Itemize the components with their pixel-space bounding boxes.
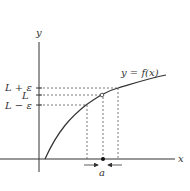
point-a <box>101 157 105 161</box>
open-point-a-L <box>100 93 104 97</box>
curve-label: y = f(x) <box>120 67 159 78</box>
x-point-label: a <box>99 167 105 178</box>
epsilon-delta-diagram: y x y = f(x) L + ε L L − ε a <box>0 0 190 191</box>
y-axis-label: y <box>35 27 42 38</box>
tick-label-lower: L − ε <box>4 100 32 111</box>
x-axis-label: x <box>178 153 184 164</box>
